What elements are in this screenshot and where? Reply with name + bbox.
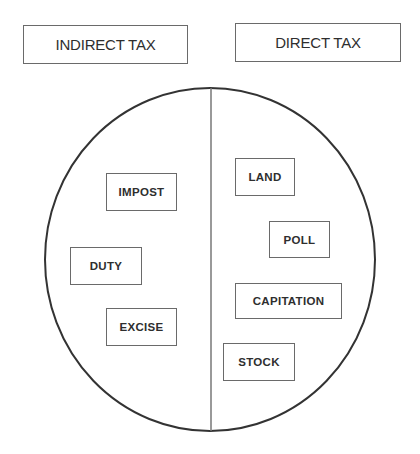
indirect-item-impost: IMPOST [106,173,177,211]
direct-item-stock: STOCK [223,343,295,381]
direct-item-land: LAND [235,158,295,196]
indirect-item-excise: EXCISE [106,308,177,346]
indirect-item-duty: DUTY [70,247,142,285]
circle-graphic [0,0,420,454]
indirect-tax-header: INDIRECT TAX [23,25,188,64]
direct-tax-header: DIRECT TAX [235,23,401,62]
direct-item-poll: POLL [269,221,330,258]
tax-classification-diagram: INDIRECT TAX DIRECT TAX IMPOST DUTY EXCI… [0,0,420,454]
direct-item-capitation: CAPITATION [235,283,342,319]
